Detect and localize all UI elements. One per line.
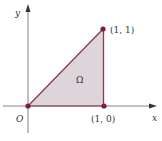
point-1-1 (100, 26, 105, 31)
y-axis-label: y (14, 8, 21, 18)
origin-label: O (16, 114, 24, 124)
point-1-0-label: (1, 0) (91, 114, 115, 124)
x-axis-label: x (152, 113, 157, 123)
x-axis-arrow-icon (149, 104, 157, 109)
y-axis-arrow-icon (26, 4, 31, 12)
triangle-region-diagram: y x O (1, 0) (1, 1) Ω (0, 0, 162, 141)
point-origin (25, 103, 30, 108)
diagram-canvas: y x O (1, 0) (1, 1) Ω (0, 0, 162, 141)
point-1-1-label: (1, 1) (110, 25, 134, 35)
region-omega-label: Ω (76, 75, 83, 85)
point-1-0 (101, 103, 106, 108)
